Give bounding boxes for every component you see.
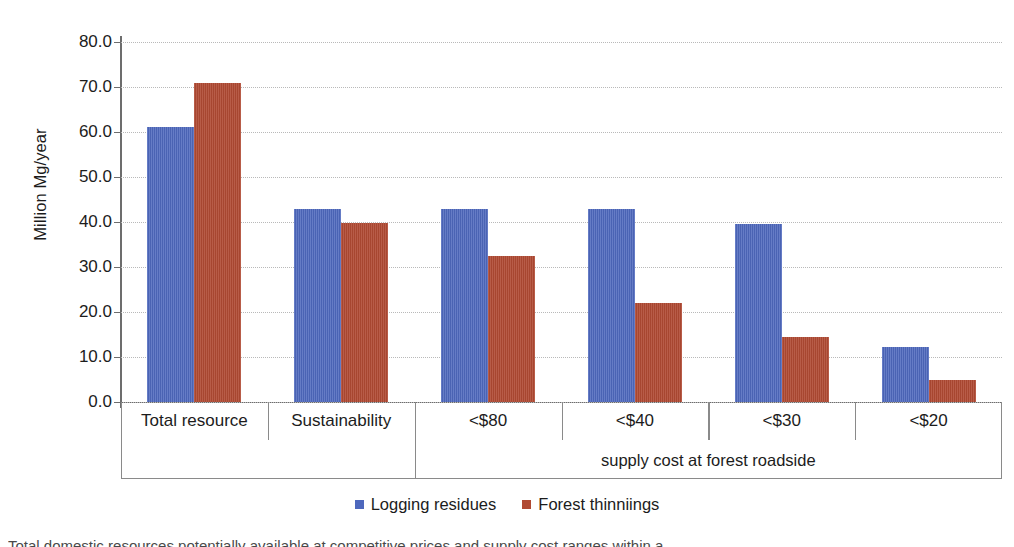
legend-entry[interactable]: Forest thinniings	[522, 495, 659, 514]
y-axis-tick-mark	[114, 402, 121, 403]
bar-chart-figure: Million Mg/year 80.070.060.050.040.030.0…	[0, 0, 1014, 547]
bar	[488, 256, 535, 402]
legend-swatch-blue-icon	[355, 500, 364, 509]
bar-group	[415, 42, 562, 402]
bar	[441, 209, 488, 402]
bar	[929, 380, 976, 403]
y-axis-tick-label: 0.0	[50, 393, 112, 410]
bar-group	[268, 42, 415, 402]
x-axis-group-label-supply-cost: supply cost at forest roadside	[415, 440, 1002, 478]
y-axis-tick-mark	[114, 42, 121, 43]
y-axis-tick-mark	[114, 222, 121, 223]
bar	[194, 83, 241, 402]
x-axis-table-right-border	[1001, 402, 1002, 479]
y-axis-tick-label: 70.0	[50, 78, 112, 95]
y-axis-tick-mark	[114, 87, 121, 88]
x-axis-tick-label: <$80	[415, 402, 562, 440]
y-axis-tick-label: 60.0	[50, 123, 112, 140]
x-axis-column-separator	[415, 402, 416, 479]
x-axis-column-separator	[855, 402, 856, 440]
bar	[294, 209, 341, 402]
y-axis-tick-mark	[114, 357, 121, 358]
chart-legend: Logging residuesForest thinniings	[0, 495, 1014, 514]
y-axis-tick-mark	[114, 312, 121, 313]
bar	[882, 347, 929, 402]
y-axis-tick-mark	[114, 132, 121, 133]
y-axis-tick-mark	[114, 267, 121, 268]
y-axis-tick-label: 40.0	[50, 213, 112, 230]
legend-label: Logging residues	[371, 495, 497, 514]
x-axis-label-table: supply cost at forest roadside Total res…	[121, 402, 1002, 479]
y-axis-tick-label: 30.0	[50, 258, 112, 275]
x-axis-tick-label: Sustainability	[268, 402, 415, 440]
legend-entry[interactable]: Logging residues	[355, 495, 497, 514]
bar-group	[708, 42, 855, 402]
x-axis-tick-label: <$20	[855, 402, 1002, 440]
bar	[782, 337, 829, 402]
bar	[341, 223, 388, 402]
bar-group	[562, 42, 709, 402]
y-axis-tick-mark	[114, 177, 121, 178]
x-axis-table-left-border	[121, 402, 122, 479]
y-axis-tick-label: 50.0	[50, 168, 112, 185]
x-axis-tick-label: Total resource	[121, 402, 268, 440]
x-axis-column-separator	[708, 402, 709, 440]
legend-label: Forest thinniings	[538, 495, 659, 514]
bar	[735, 224, 782, 402]
x-axis-table-bottom-border	[121, 478, 1002, 479]
x-axis-column-separator	[268, 402, 269, 440]
bar	[147, 127, 194, 402]
y-axis-tick-labels: 80.070.060.050.040.030.020.010.00.0	[38, 42, 112, 402]
bar-group	[855, 42, 1002, 402]
x-axis-tick-label: <$30	[708, 402, 855, 440]
bar	[588, 209, 635, 402]
legend-swatch-red-icon	[522, 500, 531, 509]
y-axis-tick-label: 20.0	[50, 303, 112, 320]
figure-caption: Total domestic resources potentially ava…	[8, 537, 1006, 547]
y-axis-tick-label: 10.0	[50, 348, 112, 365]
bar	[635, 303, 682, 402]
plot-area	[121, 42, 1002, 402]
bar-group	[121, 42, 268, 402]
x-axis-tick-label: <$40	[562, 402, 709, 440]
x-axis-column-separator	[562, 402, 563, 440]
y-axis-tick-label: 80.0	[50, 33, 112, 50]
